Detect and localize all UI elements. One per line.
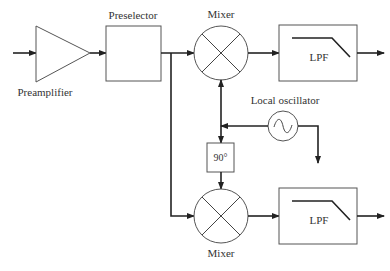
preselector-block: Preselector [106, 9, 161, 81]
phase-shifter-block: 90° [207, 143, 234, 172]
mixer-bottom-block: Mixer [194, 189, 248, 259]
lpf-bottom-block: LPF [279, 188, 357, 244]
lpf-bottom-label: LPF [310, 214, 329, 226]
local-oscillator-block: Local oscillator [251, 94, 320, 141]
preselector-to-mixer-bottom-arrow [171, 53, 194, 216]
phase-shifter-label: 90° [214, 152, 228, 163]
receiver-diagram: Preamplifier Preselector Mixer LPF Local… [0, 0, 390, 271]
mixer-top-block: Mixer [194, 8, 248, 80]
mixer-bottom-label: Mixer [208, 247, 235, 259]
preamplifier-block: Preamplifier [18, 26, 90, 98]
preamplifier-label: Preamplifier [18, 86, 73, 98]
preselector-box [106, 26, 161, 81]
oscillator-aux-output-arrow [298, 126, 318, 163]
local-oscillator-label: Local oscillator [251, 94, 320, 106]
preselector-label: Preselector [109, 9, 158, 21]
lpf-top-label: LPF [310, 51, 329, 63]
lpf-top-block: LPF [279, 25, 357, 81]
preamplifier-triangle [36, 26, 90, 82]
mixer-top-label: Mixer [208, 8, 235, 20]
